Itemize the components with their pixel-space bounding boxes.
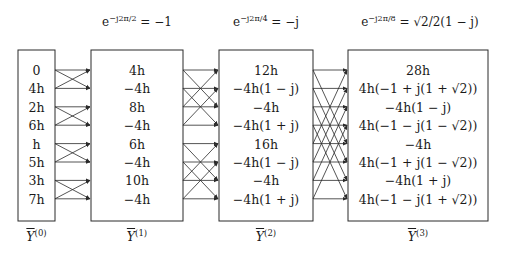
stage-value: −4h — [124, 191, 150, 206]
twiddle-factor-label: e−j2π/8 = √2/2(1 − j) — [361, 14, 478, 29]
twiddle-factor-label: e−j2π/2 = −1 — [102, 14, 172, 29]
vector-label: Y(1) — [127, 228, 147, 244]
stage-value: 0 — [33, 63, 41, 78]
stage-value: 16h — [254, 136, 278, 151]
stage-value: 10h — [125, 173, 149, 188]
stage-value: 8h — [129, 99, 145, 114]
stage-value: 12h — [254, 63, 278, 78]
vector-label: Y(3) — [408, 228, 428, 244]
stage-value: −4h(1 − j) — [385, 99, 451, 114]
stage-value: −4h(1 + j) — [233, 191, 299, 206]
stage-value: 4h — [28, 81, 44, 96]
stage-value: 5h — [28, 155, 44, 170]
stage-value: −4h — [124, 81, 150, 96]
stage-value: −4h(1 − j) — [233, 81, 299, 96]
stage-value: 6h — [28, 118, 44, 133]
stage-value: 4h(−1 + j(1 − √2)) — [359, 155, 478, 170]
stage-value: 4h — [129, 63, 145, 78]
stage-value: −4h — [124, 155, 150, 170]
twiddle-factor-label: e−j2π/4 = −j — [233, 14, 299, 29]
vector-label: Y(0) — [26, 228, 46, 244]
stage-value: −4h(1 − j) — [233, 155, 299, 170]
stage-value: 2h — [28, 99, 44, 114]
stage-value: 4h(−1 − j(1 − √2)) — [359, 118, 478, 133]
vector-label: Y(2) — [256, 228, 276, 244]
stage-value: −4h(1 + j) — [385, 173, 451, 188]
stage-value: h — [32, 136, 40, 151]
stage-value: −4h — [124, 118, 150, 133]
stage-value: 28h — [406, 63, 430, 78]
stage-value: 4h(−1 + j(1 + √2)) — [359, 81, 478, 96]
stage-value: 3h — [28, 173, 44, 188]
stage-value: 6h — [129, 136, 145, 151]
stage-value: −4h — [405, 136, 431, 151]
stage-value: −4h — [253, 99, 279, 114]
stage-value: 4h(−1 − j(1 + √2)) — [359, 191, 478, 206]
stage-value: −4h(1 + j) — [233, 118, 299, 133]
stage-value: −4h — [253, 173, 279, 188]
stage-value: 7h — [28, 191, 44, 206]
